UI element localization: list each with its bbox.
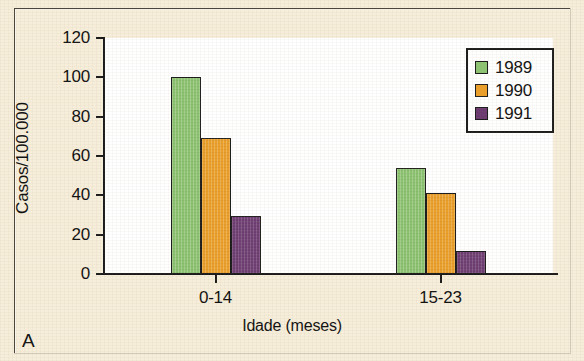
legend-label: 1990 <box>495 82 532 99</box>
legend-swatch-icon <box>475 61 488 74</box>
bar-1989-0-14 <box>171 77 201 274</box>
x-axis-tick <box>215 275 217 283</box>
y-axis-tick-label-wrap: 0 <box>38 265 90 266</box>
figure-panel-a: 020406080100120 Casos/100.000 0-1415-23 … <box>0 0 584 361</box>
bar-1991-0-14 <box>231 216 261 274</box>
y-axis-tick-label: 40 <box>38 186 90 203</box>
legend-item-1990: 1990 <box>475 79 545 102</box>
y-axis-tick-label: 60 <box>38 147 90 164</box>
legend-swatch-icon <box>475 84 488 97</box>
bar-1989-15-23 <box>396 168 426 274</box>
bar-1990-0-14 <box>201 138 231 274</box>
legend-item-1991: 1991 <box>475 102 545 125</box>
legend: 198919901991 <box>466 48 554 133</box>
x-axis-category-label: 15-23 <box>381 288 501 308</box>
x-axis-line <box>96 273 558 275</box>
x-axis-tick <box>440 275 442 283</box>
y-axis-tick-label-wrap: 80 <box>38 108 90 109</box>
y-axis-tick <box>96 116 104 118</box>
x-axis-label: Idade (meses) <box>0 317 584 335</box>
y-axis-tick-label: 0 <box>38 265 90 282</box>
y-axis-tick-label: 80 <box>38 108 90 125</box>
y-axis-tick-label-wrap: 60 <box>38 147 90 148</box>
y-axis-tick <box>96 273 104 275</box>
legend-item-1989: 1989 <box>475 56 545 79</box>
y-axis-tick <box>96 155 104 157</box>
y-axis-tick-label-wrap: 40 <box>38 186 90 187</box>
y-axis-tick <box>96 234 104 236</box>
y-axis-tick <box>96 194 104 196</box>
y-axis-tick-label: 100 <box>38 68 90 85</box>
y-axis-label: Casos/100.000 <box>13 63 33 253</box>
panel-letter: A <box>22 330 35 352</box>
x-axis-category-label: 0-14 <box>156 288 276 308</box>
y-axis-tick-label: 20 <box>38 226 90 243</box>
legend-label: 1989 <box>495 59 532 76</box>
y-axis-tick <box>96 76 104 78</box>
y-axis-tick <box>96 37 104 39</box>
legend-label: 1991 <box>495 105 532 122</box>
legend-swatch-icon <box>475 107 488 120</box>
y-axis-tick-label-wrap: 120 <box>38 29 90 30</box>
y-axis-tick-label: 120 <box>38 29 90 46</box>
bar-1991-15-23 <box>456 251 486 274</box>
y-axis-tick-label-wrap: 20 <box>38 226 90 227</box>
bar-1990-15-23 <box>426 193 456 274</box>
y-axis-tick-label-wrap: 100 <box>38 68 90 69</box>
